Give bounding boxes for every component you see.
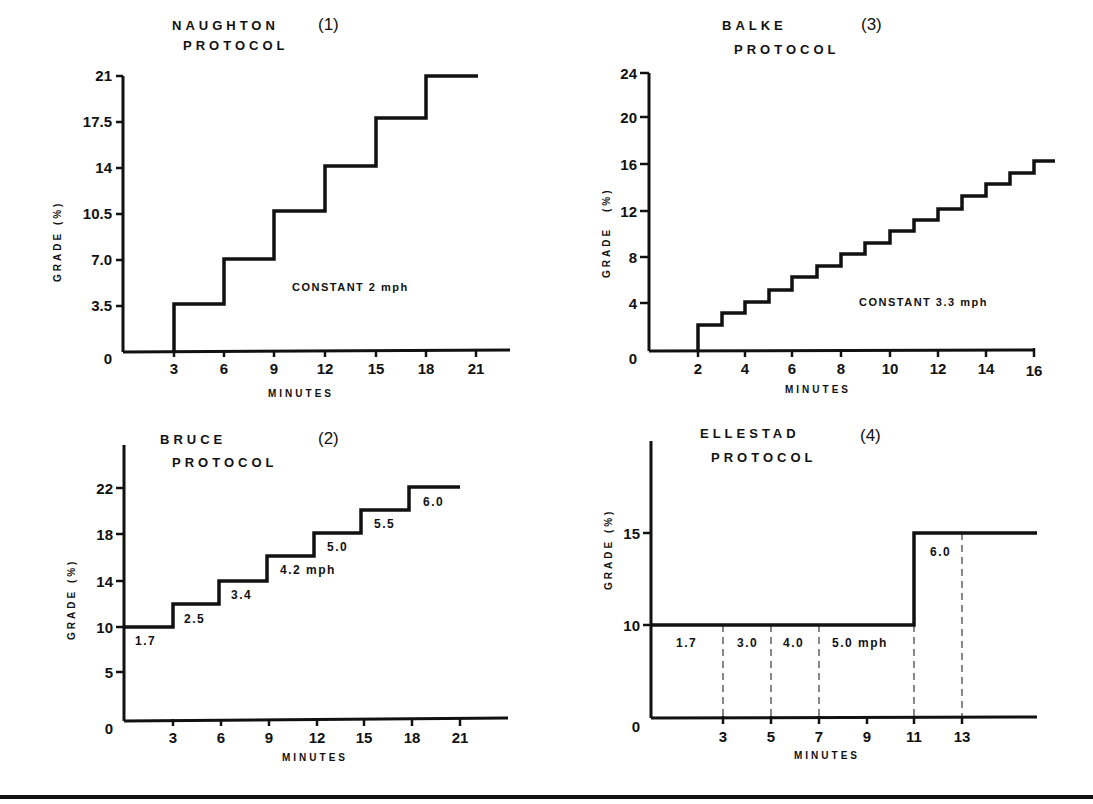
svg-text:21: 21 xyxy=(468,360,485,377)
speed-annotation: CONSTANT 2 mph xyxy=(292,281,409,293)
svg-text:20: 20 xyxy=(620,109,637,126)
svg-text:9: 9 xyxy=(270,360,278,377)
svg-text:4.2 mph: 4.2 mph xyxy=(280,563,336,577)
svg-text:12: 12 xyxy=(930,360,947,377)
svg-text:15: 15 xyxy=(368,360,385,377)
svg-text:3: 3 xyxy=(719,728,727,745)
svg-text:11: 11 xyxy=(906,728,922,745)
svg-text:3: 3 xyxy=(170,360,178,377)
grade-step-line xyxy=(174,76,478,352)
grade-step-line xyxy=(651,533,1037,625)
svg-text:0: 0 xyxy=(105,720,113,737)
y-axis-label: GRADE (%) xyxy=(52,201,63,282)
chart-title-line1: NAUGHTON xyxy=(172,18,279,33)
svg-text:14: 14 xyxy=(96,573,113,590)
svg-text:21: 21 xyxy=(95,67,112,84)
svg-text:18: 18 xyxy=(96,526,113,543)
svg-text:8: 8 xyxy=(629,249,637,266)
svg-text:12: 12 xyxy=(317,360,334,377)
svg-text:5.0: 5.0 xyxy=(327,540,348,554)
x-axis-label: MINUTES xyxy=(268,388,334,399)
svg-text:16: 16 xyxy=(620,156,637,173)
grade-step-line xyxy=(124,487,460,627)
svg-text:21: 21 xyxy=(452,729,469,746)
svg-text:16: 16 xyxy=(1026,362,1043,379)
x-tick-labels: 3 6 9 12 15 18 21 xyxy=(170,360,485,377)
stage-speed-labels: 1.7 2.5 3.4 4.2 mph 5.0 5.5 6.0 xyxy=(135,495,444,648)
y-tick-labels: 21 17.5 14 10.5 7.0 3.5 0 xyxy=(83,67,113,367)
chart-naughton: NAUGHTON PROTOCOL (1) 21 17.5 14 10.5 7.… xyxy=(52,15,510,399)
svg-text:9: 9 xyxy=(265,729,273,746)
svg-text:7: 7 xyxy=(815,728,823,745)
svg-text:6: 6 xyxy=(788,360,796,377)
svg-text:12: 12 xyxy=(620,203,637,220)
svg-text:2.5: 2.5 xyxy=(184,612,205,626)
y-axis-label: GRADE (%) xyxy=(603,509,614,590)
chart-title-line1: BRUCE xyxy=(160,432,226,447)
x-axis-label: MINUTES xyxy=(282,752,348,763)
svg-text:6: 6 xyxy=(220,360,228,377)
svg-text:18: 18 xyxy=(404,729,421,746)
chart-ellestad: ELLESTAD PROTOCOL (4) 15 10 0 xyxy=(603,426,1037,761)
svg-text:12: 12 xyxy=(309,729,326,746)
svg-text:9: 9 xyxy=(863,728,871,745)
speed-annotation: CONSTANT 3.3 mph xyxy=(859,296,988,308)
x-axis-label: MINUTES xyxy=(785,384,851,395)
chart-number: (4) xyxy=(860,426,881,445)
stage-speed-labels: 1.7 3.0 4.0 5.0 mph 6.0 xyxy=(676,545,951,650)
svg-text:14: 14 xyxy=(95,159,112,176)
x-axis-label: MINUTES xyxy=(794,750,860,761)
svg-text:10: 10 xyxy=(882,360,899,377)
svg-text:10: 10 xyxy=(623,617,640,634)
chart-title-line2: PROTOCOL xyxy=(172,455,277,470)
bottom-divider xyxy=(0,795,1093,799)
y-axis-label: GRADE (%) xyxy=(66,559,77,640)
svg-text:13: 13 xyxy=(954,728,971,745)
svg-text:8: 8 xyxy=(837,360,845,377)
svg-text:10: 10 xyxy=(96,619,113,636)
svg-text:2: 2 xyxy=(694,360,702,377)
svg-text:1.7: 1.7 xyxy=(676,636,697,650)
svg-text:3.0: 3.0 xyxy=(737,636,758,650)
chart-title-line1: ELLESTAD xyxy=(700,426,800,441)
svg-text:1.7: 1.7 xyxy=(135,634,156,648)
y-tick-labels: 22 18 14 10 5 0 xyxy=(96,480,113,737)
chart-number: (2) xyxy=(318,429,339,448)
svg-text:3.4: 3.4 xyxy=(231,588,252,602)
svg-text:7.0: 7.0 xyxy=(91,251,112,268)
svg-text:6.0: 6.0 xyxy=(930,545,951,559)
y-axis-label-unit: (%) xyxy=(601,187,612,212)
svg-text:18: 18 xyxy=(418,360,435,377)
chart-bruce: BRUCE PROTOCOL (2) 22 18 14 10 5 0 xyxy=(66,429,508,763)
svg-text:3: 3 xyxy=(169,729,177,746)
svg-text:3.5: 3.5 xyxy=(91,297,112,314)
svg-text:5.0 mph: 5.0 mph xyxy=(832,636,888,650)
x-tick-labels: 2 4 6 8 10 12 14 16 xyxy=(694,360,1043,379)
svg-text:4: 4 xyxy=(629,295,638,312)
chart-title-line2: PROTOCOL xyxy=(734,42,839,57)
svg-text:22: 22 xyxy=(96,480,113,497)
y-axis-label: GRADE xyxy=(601,227,612,278)
chart-title-line1: BALKE xyxy=(722,18,787,33)
svg-text:15: 15 xyxy=(356,729,373,746)
svg-text:6.0: 6.0 xyxy=(423,495,444,509)
x-axis xyxy=(123,350,510,352)
svg-text:4: 4 xyxy=(741,360,750,377)
svg-text:5.5: 5.5 xyxy=(374,517,395,531)
x-axis xyxy=(651,717,1037,718)
svg-text:14: 14 xyxy=(978,360,995,377)
svg-text:10.5: 10.5 xyxy=(83,205,112,222)
chart-balke: BALKE PROTOCOL (3) 24 20 16 12 8 4 0 xyxy=(601,15,1055,395)
svg-text:5: 5 xyxy=(767,728,775,745)
x-tick-labels: 3 6 9 12 15 18 21 xyxy=(169,729,469,746)
svg-text:24: 24 xyxy=(620,65,637,82)
svg-text:5: 5 xyxy=(105,664,113,681)
svg-text:15: 15 xyxy=(623,525,640,542)
protocols-figure: NAUGHTON PROTOCOL (1) 21 17.5 14 10.5 7.… xyxy=(0,0,1093,804)
grade-step-line xyxy=(698,161,1055,351)
chart-number: (1) xyxy=(318,15,339,34)
chart-title-line2: PROTOCOL xyxy=(711,450,816,465)
x-tick-labels: 3 5 7 9 11 13 xyxy=(719,728,971,745)
svg-text:17.5: 17.5 xyxy=(83,113,112,130)
svg-text:6: 6 xyxy=(217,729,225,746)
